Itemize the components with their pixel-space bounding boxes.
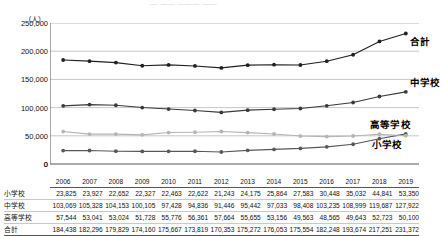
data-point-high_school bbox=[404, 134, 408, 138]
table-cell-value: 179,829 bbox=[103, 224, 129, 236]
data-point-elementary bbox=[298, 147, 302, 151]
table-col-header-year: 2019 bbox=[392, 176, 419, 188]
table-cell-value: 175,554 bbox=[287, 224, 313, 236]
table-cell-value: 51,728 bbox=[129, 212, 155, 224]
table-row: 小学校23,82523,92722,65222,32722,46322,6222… bbox=[4, 188, 419, 200]
table-cell-value: 98,408 bbox=[287, 200, 313, 212]
chart-svg bbox=[50, 23, 419, 166]
table-col-header-year: 2014 bbox=[261, 176, 287, 188]
y-axis-tick-labels: 050,000100,000150,000200,000250,0000 bbox=[0, 6, 48, 178]
data-point-elementary bbox=[140, 150, 144, 154]
table-col-header-year: 2013 bbox=[234, 176, 260, 188]
data-point-elementary bbox=[219, 150, 223, 154]
series-label-total: 合計 bbox=[410, 34, 431, 48]
table-col-header-year: 2018 bbox=[366, 176, 392, 188]
data-point-total bbox=[61, 58, 65, 62]
table-cell-value: 231,372 bbox=[392, 224, 419, 236]
table-cell-value: 103,069 bbox=[50, 200, 76, 212]
y-tick-label: 150,000 bbox=[4, 75, 48, 84]
table-cell-value: 27,583 bbox=[287, 188, 313, 200]
line-chart: （人） 050,000100,000150,000200,000250,0000… bbox=[0, 6, 423, 178]
data-point-total bbox=[140, 64, 144, 68]
table-col-header-year: 2010 bbox=[155, 176, 181, 188]
data-point-high_school bbox=[114, 132, 118, 136]
data-point-junior_high bbox=[325, 104, 329, 108]
plot-area: 合計中学校高等学校小学校 bbox=[50, 23, 419, 164]
table-cell-value: 48,565 bbox=[313, 212, 339, 224]
table-cell-value: 50,100 bbox=[392, 212, 419, 224]
table-head: 2006200720082009201020112012201320142015… bbox=[4, 176, 419, 188]
data-point-total bbox=[378, 40, 382, 44]
series-label-junior_high: 中学校 bbox=[410, 75, 441, 89]
data-point-high_school bbox=[219, 130, 223, 134]
data-point-total bbox=[193, 64, 197, 68]
table-cell-value: 44,841 bbox=[366, 188, 392, 200]
table-cell-value: 217,251 bbox=[366, 224, 392, 236]
data-point-elementary bbox=[325, 145, 329, 149]
table-col-header-year: 2008 bbox=[103, 176, 129, 188]
table-cell-value: 55,776 bbox=[155, 212, 181, 224]
table-cell-value: 184,438 bbox=[50, 224, 76, 236]
data-point-junior_high bbox=[167, 107, 171, 111]
data-point-high_school bbox=[140, 133, 144, 137]
data-point-high_school bbox=[88, 132, 92, 136]
table-col-header-year: 2012 bbox=[208, 176, 234, 188]
y-tick-label: 200,000 bbox=[4, 47, 48, 56]
table-cell-value: 127,922 bbox=[392, 200, 419, 212]
data-point-total bbox=[219, 66, 223, 70]
table-row: 合計184,438182,296179,829174,160175,667173… bbox=[4, 224, 419, 236]
data-point-total bbox=[325, 59, 329, 63]
table-cell-value: 182,248 bbox=[313, 224, 339, 236]
table-cell-value: 174,160 bbox=[129, 224, 155, 236]
table-cell-value: 108,999 bbox=[340, 200, 366, 212]
table-cell-value: 23,825 bbox=[50, 188, 76, 200]
data-point-total bbox=[298, 63, 302, 67]
data-point-junior_high bbox=[219, 111, 223, 115]
data-point-junior_high bbox=[404, 90, 408, 94]
data-point-elementary bbox=[114, 149, 118, 153]
table-cell-value: 57,664 bbox=[208, 212, 234, 224]
series-label-elementary: 小学校 bbox=[372, 137, 403, 151]
table-cell-value: 176,053 bbox=[261, 224, 287, 236]
table-cell-value: 22,622 bbox=[182, 188, 208, 200]
table-col-header-year: 2011 bbox=[182, 176, 208, 188]
table-body: 小学校23,82523,92722,65222,32722,46322,6222… bbox=[4, 188, 419, 236]
table-cell-value: 55,655 bbox=[234, 212, 260, 224]
table-header-row: 2006200720082009201020112012201320142015… bbox=[4, 176, 419, 188]
data-point-high_school bbox=[351, 134, 355, 138]
table-cell-value: 53,041 bbox=[76, 212, 102, 224]
table-cell-value: 173,819 bbox=[182, 224, 208, 236]
table-row: 中学校103,069105,328104,153100,10597,42894,… bbox=[4, 200, 419, 212]
table-cell-value: 23,927 bbox=[76, 188, 102, 200]
table-cell-value: 91,446 bbox=[208, 200, 234, 212]
table-cell-value: 119,687 bbox=[366, 200, 392, 212]
table-cell-value: 49,563 bbox=[287, 212, 313, 224]
data-point-junior_high bbox=[140, 106, 144, 110]
table-cell-value: 193,674 bbox=[340, 224, 366, 236]
table-cell-value: 25,864 bbox=[261, 188, 287, 200]
data-point-junior_high bbox=[298, 107, 302, 111]
table-cell-value: 170,353 bbox=[208, 224, 234, 236]
table-col-header-year: 2016 bbox=[313, 176, 339, 188]
table-cell-value: 104,153 bbox=[103, 200, 129, 212]
table-col-header-year: 2009 bbox=[129, 176, 155, 188]
data-point-high_school bbox=[298, 134, 302, 138]
data-point-high_school bbox=[378, 132, 382, 136]
data-point-total bbox=[88, 59, 92, 63]
table-cell-value: 22,463 bbox=[155, 188, 181, 200]
table-cell-value: 21,243 bbox=[208, 188, 234, 200]
table-cell-value: 97,033 bbox=[261, 200, 287, 212]
table-col-header-year: 2017 bbox=[340, 176, 366, 188]
data-point-elementary bbox=[272, 148, 276, 152]
table-row-header: 中学校 bbox=[4, 200, 50, 212]
table-row: 高等学校57,54453,04153,02451,72855,77656,361… bbox=[4, 212, 419, 224]
data-point-junior_high bbox=[114, 103, 118, 107]
y-tick-label: 50,000 bbox=[4, 131, 48, 140]
data-point-elementary bbox=[193, 149, 197, 153]
y-tick-label: 100,000 bbox=[4, 103, 48, 112]
table-cell-value: 22,652 bbox=[103, 188, 129, 200]
table-cell-value: 100,105 bbox=[129, 200, 155, 212]
data-point-elementary bbox=[246, 148, 250, 152]
table-col-header-year: 2015 bbox=[287, 176, 313, 188]
data-point-elementary bbox=[61, 149, 65, 153]
